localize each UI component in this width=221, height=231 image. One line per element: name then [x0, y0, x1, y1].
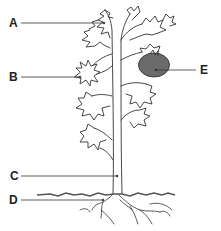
- label-e: E: [200, 64, 208, 76]
- ground-line: [37, 193, 175, 196]
- leader-lines: [21, 22, 196, 201]
- top-leaves: [82, 6, 176, 48]
- label-a: A: [9, 17, 18, 29]
- flower: [75, 54, 112, 86]
- roots: [80, 194, 172, 224]
- left-leaves: [76, 92, 113, 160]
- plant-drawing: [0, 0, 221, 231]
- label-c: C: [10, 170, 19, 182]
- tomato-fruit: [139, 50, 170, 77]
- tomato-plant-diagram: A B C D E: [0, 0, 221, 231]
- label-b: B: [9, 71, 18, 83]
- label-d: D: [9, 194, 18, 206]
- stem: [105, 10, 130, 194]
